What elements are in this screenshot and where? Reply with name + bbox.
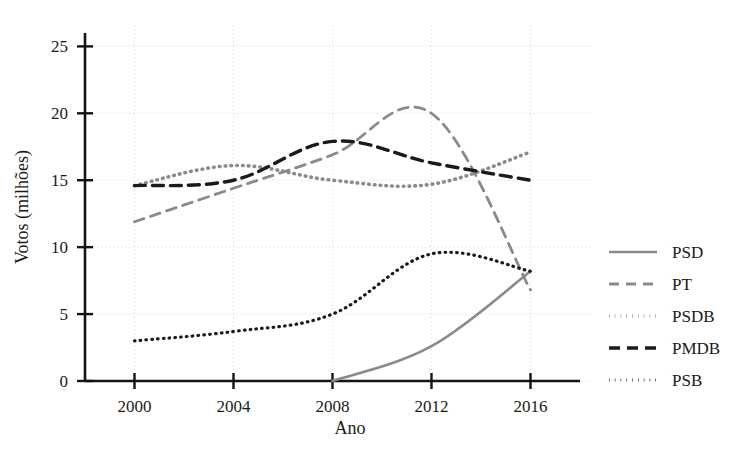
y-tick-labels: 0510152025 bbox=[51, 37, 68, 391]
x-tick-label: 2016 bbox=[514, 397, 548, 416]
x-tick-labels: 20002004200820122016 bbox=[118, 397, 548, 416]
x-tick-label: 2008 bbox=[316, 397, 350, 416]
series-line-pmdb bbox=[135, 141, 531, 186]
line-chart-canvas: 0510152025 20002004200820122016 Ano Voto… bbox=[0, 0, 754, 466]
legend-label-psb: PSB bbox=[672, 371, 702, 390]
y-tick-label: 25 bbox=[51, 37, 68, 56]
grid-lines bbox=[85, 25, 592, 381]
legend-label-pt: PT bbox=[672, 275, 692, 294]
legend: PSDPTPSDBPMDBPSB bbox=[609, 243, 720, 390]
series-line-pt bbox=[135, 107, 531, 290]
data-series bbox=[135, 107, 531, 381]
y-tick-label: 5 bbox=[60, 305, 69, 324]
x-axis-title: Ano bbox=[335, 418, 366, 438]
y-tick-label: 0 bbox=[60, 372, 69, 391]
y-tick-label: 15 bbox=[51, 171, 68, 190]
x-tick-label: 2004 bbox=[217, 397, 252, 416]
series-line-psd bbox=[333, 271, 531, 381]
y-tick-label: 10 bbox=[51, 238, 68, 257]
legend-label-psdb: PSDB bbox=[672, 307, 715, 326]
legend-label-psd: PSD bbox=[672, 243, 703, 262]
y-axis-title: Votos (milhões) bbox=[12, 150, 33, 264]
y-tick-label: 20 bbox=[51, 104, 68, 123]
tick-marks bbox=[77, 46, 531, 389]
x-tick-label: 2012 bbox=[415, 397, 449, 416]
x-tick-label: 2000 bbox=[118, 397, 152, 416]
chart-figure: 0510152025 20002004200820122016 Ano Voto… bbox=[0, 0, 754, 466]
legend-label-pmdb: PMDB bbox=[672, 339, 720, 358]
